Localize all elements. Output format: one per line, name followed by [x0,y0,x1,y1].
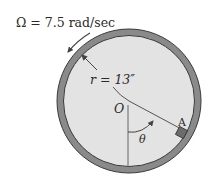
rotating-ring-diagram: Ω = 7.5 rad/sec r = 13″ O θ A [0,0,213,189]
center-label: O [114,101,124,116]
radius-label: r = 13″ [90,72,135,87]
angle-label: θ [139,133,146,146]
angular-velocity-label: Ω = 7.5 rad/sec [16,15,115,30]
diagram-svg: Ω = 7.5 rad/sec r = 13″ O θ A [0,0,213,189]
block-label: A [177,116,187,129]
